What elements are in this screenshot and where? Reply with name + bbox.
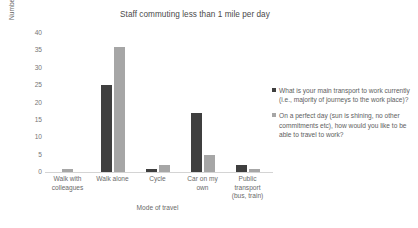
bar — [236, 165, 247, 172]
x-tick-label: Walk alone — [90, 175, 135, 184]
chart-title: Staff commuting less than 1 mile per day — [0, 10, 390, 19]
y-tick-label: 35 — [22, 47, 42, 54]
x-tick-label: Publictransport(bus, train) — [225, 175, 270, 201]
legend-swatch-icon — [272, 88, 276, 92]
y-tick-label: 0 — [22, 169, 42, 176]
chart-container: Staff commuting less than 1 mile per day… — [0, 0, 418, 228]
x-tick-label-line: transport — [225, 184, 270, 193]
legend-swatch-icon — [272, 113, 276, 117]
x-tick-label-line: Walk with — [45, 175, 90, 184]
x-tick-label: Cycle — [135, 175, 180, 184]
y-tick-label: 20 — [22, 99, 42, 106]
x-tick-label-line: Car on my — [180, 175, 225, 184]
x-tick-label: Walk withcolleagues — [45, 175, 90, 192]
y-tick-label: 15 — [22, 117, 42, 124]
x-tick-label-line: own — [180, 184, 225, 193]
x-axis-line — [45, 172, 273, 173]
x-tick-label-line: (bus, train) — [225, 192, 270, 201]
y-tick-label: 40 — [22, 30, 42, 37]
y-tick-label: 30 — [22, 64, 42, 71]
bar — [101, 85, 112, 172]
x-tick-label-line: Public — [225, 175, 270, 184]
bar — [114, 47, 125, 172]
legend-entry[interactable]: What is your main transport to work curr… — [272, 86, 418, 104]
y-tick-label: 25 — [22, 82, 42, 89]
y-tick-label: 5 — [22, 151, 42, 158]
legend-label: What is your main transport to work curr… — [279, 86, 418, 104]
bar-group — [135, 33, 180, 172]
x-tick-label-line: colleagues — [45, 184, 90, 193]
bar — [191, 113, 202, 172]
x-tick-label: Car on myown — [180, 175, 225, 192]
y-tick-label: 10 — [22, 134, 42, 141]
bar-group — [90, 33, 135, 172]
bar-group — [180, 33, 225, 172]
y-axis: 4035302520151050 — [22, 33, 42, 172]
y-axis-title: Number of staff — [8, 0, 15, 50]
legend-entry[interactable]: On a perfect day (sun is shining, no oth… — [272, 111, 418, 139]
x-tick-label-line: Walk alone — [90, 175, 135, 184]
x-axis-title: Mode of travel — [45, 204, 270, 211]
x-tick-label-line: Cycle — [135, 175, 180, 184]
legend-label: On a perfect day (sun is shining, no oth… — [279, 111, 418, 139]
bar-group — [225, 33, 270, 172]
chart-legend: What is your main transport to work curr… — [272, 86, 418, 146]
x-axis-tick-labels: Walk withcolleaguesWalk aloneCycleCar on… — [45, 175, 270, 207]
bar — [204, 155, 215, 172]
bar — [159, 165, 170, 172]
plot-area — [45, 33, 270, 172]
y-axis-title-label: Number of staff — [8, 0, 15, 50]
bar-group — [45, 33, 90, 172]
